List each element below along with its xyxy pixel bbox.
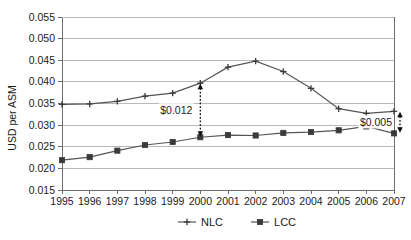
data-point-marker-square	[225, 132, 230, 137]
data-point-marker-square	[253, 133, 258, 138]
y-tick-label: 0.020	[29, 162, 55, 174]
x-tick-label: 1995	[50, 195, 74, 207]
data-point-marker-square	[87, 155, 92, 160]
x-tick-label: 1998	[133, 195, 157, 207]
legend-label: NLC	[201, 216, 223, 228]
x-tick-label: 2007	[382, 195, 406, 207]
data-point-marker-square	[281, 130, 286, 135]
chart-container: 0.0550.0500.0450.0400.0350.0300.0250.020…	[0, 0, 411, 240]
y-axis-tick-labels: 0.0550.0500.0450.0400.0350.0300.0250.020…	[29, 11, 55, 196]
y-tick-label: 0.045	[29, 54, 55, 66]
y-tick-label: 0.035	[29, 97, 55, 109]
x-tick-label: 1997	[106, 195, 130, 207]
y-tick-label: 0.055	[29, 11, 55, 23]
data-point-marker-square	[59, 158, 64, 163]
y-tick-label: 0.025	[29, 140, 55, 152]
x-tick-label: 2006	[355, 195, 379, 207]
x-tick-label: 1999	[161, 195, 185, 207]
data-point-marker-square	[308, 129, 313, 134]
data-point-marker-square	[115, 148, 120, 153]
x-tick-label: 2005	[327, 195, 351, 207]
data-point-marker-square	[257, 219, 262, 224]
data-point-marker-square	[391, 131, 396, 136]
line-chart: 0.0550.0500.0450.0400.0350.0300.0250.020…	[0, 0, 411, 240]
data-point-marker-square	[170, 139, 175, 144]
y-axis-title: USD per ASM	[6, 85, 18, 150]
x-tick-label: 2003	[272, 195, 296, 207]
annotation-label: $0.005	[360, 116, 392, 128]
x-tick-label: 2002	[244, 195, 268, 207]
y-tick-label: 0.015	[29, 184, 55, 196]
x-tick-label: 1996	[78, 195, 102, 207]
y-tick-label: 0.050	[29, 32, 55, 44]
data-point-marker-square	[336, 128, 341, 133]
x-tick-label: 2004	[299, 195, 323, 207]
legend-label: LCC	[274, 216, 296, 228]
data-point-marker-square	[142, 142, 147, 147]
annotation-label: $0.012	[160, 104, 192, 116]
y-tick-label: 0.040	[29, 75, 55, 87]
x-tick-label: 2001	[216, 195, 240, 207]
x-tick-label: 2000	[189, 195, 213, 207]
y-tick-label: 0.030	[29, 119, 55, 131]
